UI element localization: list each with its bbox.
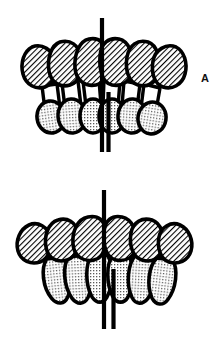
panel-b: B bbox=[0, 174, 222, 349]
panel-a: A bbox=[0, 0, 222, 175]
panel-label-a: A bbox=[201, 73, 209, 84]
figure-root: A bbox=[0, 0, 222, 349]
panel-a-illustration bbox=[0, 0, 222, 175]
panel-b-illustration bbox=[0, 174, 222, 349]
